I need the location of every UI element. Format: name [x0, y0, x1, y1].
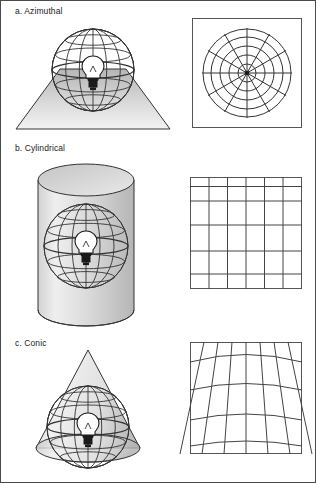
section-conic: c. Conic [0, 330, 316, 483]
conic-illustration [26, 344, 166, 479]
cylindrical-grid [190, 177, 302, 289]
azimuthal-grid [192, 18, 302, 128]
caption-cylindrical: b. Cylindrical [15, 143, 65, 153]
azimuthal-illustration [8, 16, 178, 138]
section-azimuthal: a. Azimuthal [0, 0, 316, 143]
cylindrical-illustration [26, 158, 166, 333]
caption-azimuthal: a. Azimuthal [15, 6, 63, 16]
conic-grid [190, 342, 302, 454]
section-cylindrical: b. Cylindrical [0, 140, 316, 338]
